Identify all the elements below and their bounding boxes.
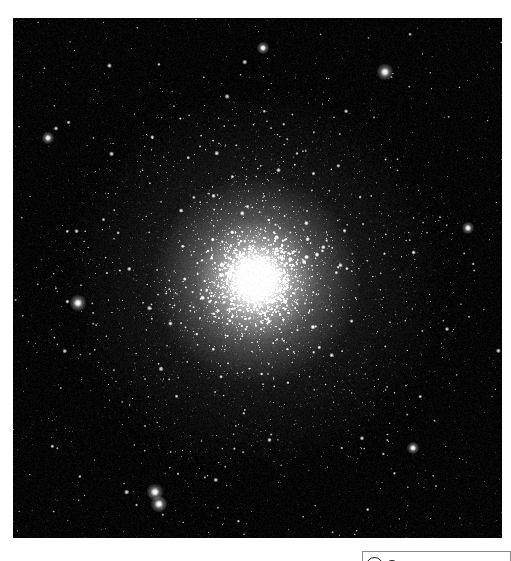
magnitude-symbol-row (366, 552, 496, 561)
starfield-canvas (13, 18, 502, 538)
page-root (0, 0, 511, 561)
magnitude-scale-legend[interactable] (362, 551, 511, 561)
globular-cluster-image (13, 18, 502, 538)
magnitude-symbol-1 (366, 557, 383, 561)
